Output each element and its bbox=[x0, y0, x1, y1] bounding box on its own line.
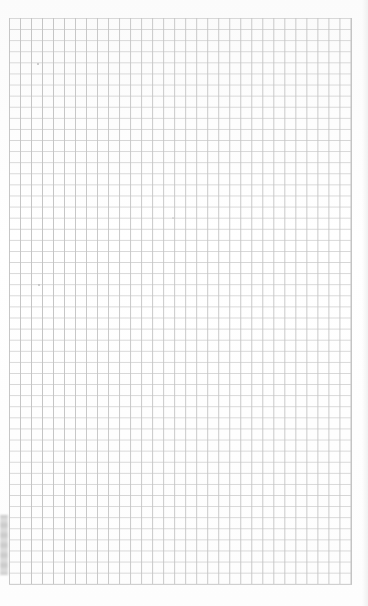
paper-speck bbox=[38, 284, 40, 286]
paper-speck bbox=[172, 217, 174, 219]
binding-shadow bbox=[0, 515, 8, 575]
paper-speck bbox=[37, 63, 39, 65]
grid-paper-sheet bbox=[0, 0, 368, 606]
page-edge-shadow bbox=[362, 0, 368, 606]
grid-lines bbox=[9, 18, 352, 585]
